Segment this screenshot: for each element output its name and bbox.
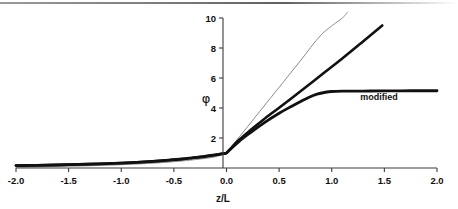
x-tick-label: 1.5 — [378, 175, 392, 186]
x-tick-label: -2.0 — [8, 175, 24, 186]
y-axis-ticks — [219, 18, 223, 138]
series-line-linear — [16, 12, 348, 167]
x-axis-ticks — [16, 168, 437, 172]
x-tick-label: -1.5 — [60, 175, 77, 186]
series-line-unmodified — [16, 26, 382, 166]
line-chart-plot: -2.0-1.5-1.0-0.50.00.51.01.52.0 246810 z… — [0, 0, 458, 209]
y-axis-tick-labels: 246810 — [205, 13, 216, 144]
series-layer — [16, 12, 437, 167]
annotation-modified: modified — [360, 92, 398, 102]
x-tick-label: 2.0 — [430, 175, 443, 186]
x-tick-label: -0.5 — [166, 175, 183, 186]
series-line-modified — [16, 91, 437, 166]
series-annotations: modified — [360, 92, 398, 102]
x-tick-label: 1.0 — [325, 175, 338, 186]
y-tick-label: 6 — [211, 73, 216, 84]
y-tick-label: 8 — [211, 43, 216, 54]
y-tick-label: 10 — [205, 13, 216, 24]
y-tick-label: 4 — [211, 103, 217, 114]
chart-figure: -2.0-1.5-1.0-0.50.00.51.01.52.0 246810 z… — [0, 0, 458, 209]
x-tick-label: -1.0 — [113, 175, 129, 186]
x-tick-label: 0.5 — [273, 175, 287, 186]
x-tick-label: 0.0 — [220, 175, 233, 186]
y-tick-label: 2 — [211, 133, 216, 144]
x-axis-title: z/L — [216, 193, 230, 204]
x-axis-tick-labels: -2.0-1.5-1.0-0.50.00.51.01.52.0 — [8, 175, 444, 186]
y-axis-title: φ — [202, 91, 211, 106]
labels-layer: -2.0-1.5-1.0-0.50.00.51.01.52.0 246810 z… — [8, 13, 444, 205]
